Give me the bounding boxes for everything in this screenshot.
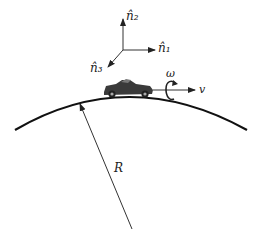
n2-label: n̂₂ [126, 9, 139, 23]
diagram-canvas: n̂₂ n̂₁ n̂₃ ω v R [0, 0, 256, 240]
n1-label: n̂₁ [158, 41, 171, 55]
car-icon [104, 79, 153, 98]
road-arc [15, 97, 247, 130]
R-label: R [113, 161, 123, 175]
radius-arrow [80, 104, 132, 229]
v-label: v [199, 83, 206, 96]
n3-label: n̂₃ [90, 61, 103, 75]
omega-label: ω [166, 67, 175, 80]
coordinate-axes [108, 19, 155, 67]
